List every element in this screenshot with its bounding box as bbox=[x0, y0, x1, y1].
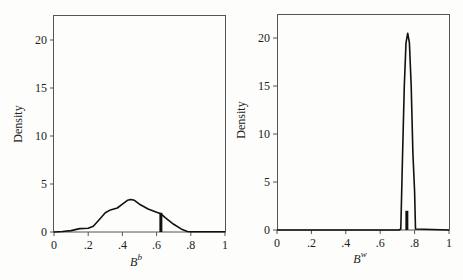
panel-left-Bb: 05101520 0.2.4.6.81 Density Bb bbox=[11, 16, 228, 270]
y-tick-label: 0 bbox=[264, 223, 270, 237]
y-tick-label: 15 bbox=[35, 81, 47, 95]
x-tick-label: .6 bbox=[152, 238, 161, 252]
x-tick-label: 1 bbox=[446, 236, 452, 250]
plot-frame bbox=[54, 16, 226, 233]
density-curve bbox=[277, 33, 449, 230]
y-axis-title: Density bbox=[234, 101, 248, 138]
x-axis: 0.2.4.6.81 bbox=[51, 232, 228, 252]
x-tick-label: .8 bbox=[186, 238, 195, 252]
x-tick-label: .2 bbox=[84, 238, 93, 252]
density-curve bbox=[54, 199, 225, 232]
x-tick-label: 1 bbox=[222, 238, 228, 252]
x-tick-label: .4 bbox=[341, 236, 350, 250]
x-tick-label: 0 bbox=[51, 238, 57, 252]
y-axis-title: Density bbox=[11, 105, 25, 142]
figure: 05101520 0.2.4.6.81 Density Bb 05101520 … bbox=[0, 0, 463, 280]
x-axis-title: Bb bbox=[130, 252, 142, 269]
x-axis: 0.2.4.6.81 bbox=[274, 230, 452, 250]
plot-frame bbox=[278, 15, 450, 231]
y-tick-label: 0 bbox=[41, 225, 47, 239]
x-tick-label: .2 bbox=[307, 236, 316, 250]
y-tick-label: 10 bbox=[258, 127, 270, 141]
x-tick-label: .4 bbox=[118, 238, 127, 252]
y-tick-label: 15 bbox=[258, 79, 270, 93]
x-tick-label: .8 bbox=[410, 236, 419, 250]
x-axis-title: Bw bbox=[353, 249, 366, 266]
y-tick-label: 5 bbox=[264, 175, 270, 189]
y-tick-label: 5 bbox=[41, 177, 47, 191]
panel-right-Bw: 05101520 0.2.4.6.81 Density Bw bbox=[234, 15, 452, 267]
y-tick-label: 20 bbox=[35, 33, 47, 47]
x-tick-label: .6 bbox=[376, 236, 385, 250]
y-axis: 05101520 bbox=[258, 31, 277, 237]
y-tick-label: 20 bbox=[258, 31, 270, 45]
x-tick-label: 0 bbox=[274, 236, 280, 250]
y-tick-label: 10 bbox=[35, 129, 47, 143]
y-axis: 05101520 bbox=[35, 33, 54, 239]
